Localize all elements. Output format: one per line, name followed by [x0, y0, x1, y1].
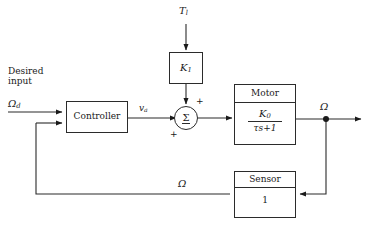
controller-output-label: va — [139, 103, 148, 113]
wire-output-tap-to-sensor — [300, 119, 326, 194]
motor-divider — [235, 102, 295, 103]
sum-plus-sign-top: + — [196, 96, 204, 106]
sensor-block[interactable]: Sensor 1 — [234, 171, 296, 218]
disturbance-gain-block[interactable]: K1 — [169, 52, 203, 84]
desired-input-line-2: input — [8, 76, 32, 86]
sensor-divider — [235, 187, 295, 188]
reference-input-label: Ωd — [8, 98, 21, 111]
sensor-label: Sensor — [235, 174, 295, 184]
motor-denominator: τs+1 — [235, 122, 295, 133]
controller-label: Controller — [67, 111, 127, 121]
motor-label: Motor — [235, 88, 295, 98]
disturbance-gain-label: K1 — [170, 62, 202, 74]
feedback-signal-label: Ω — [178, 178, 186, 190]
controller-block[interactable]: Controller — [66, 101, 128, 133]
motor-block[interactable]: Motor K0 τs+1 — [234, 84, 296, 145]
sigma-symbol: Σ — [182, 113, 189, 124]
plant-output-label: Ω — [320, 101, 328, 113]
block-diagram: Desired input Ωd Controller va Tl K1 Σ +… — [0, 0, 370, 228]
sum-plus-sign-bottom: + — [170, 129, 178, 139]
sensor-gain: 1 — [235, 195, 295, 205]
summing-junction[interactable]: Σ — [174, 106, 198, 130]
wire-feedback-path — [36, 123, 230, 194]
desired-input-line-1: Desired — [8, 66, 43, 76]
desired-input-caption: Desired input — [8, 66, 43, 87]
motor-transfer-function: K0 τs+1 — [235, 108, 295, 133]
motor-numerator: K0 — [235, 108, 295, 121]
output-junction-dot — [323, 116, 329, 122]
disturbance-input-label: Tl — [179, 5, 188, 18]
